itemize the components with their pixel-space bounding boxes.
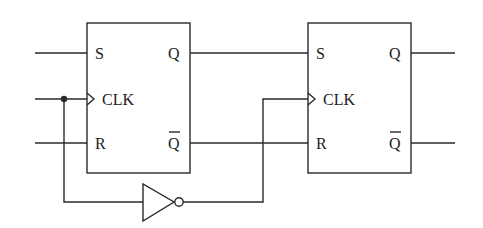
inverted-clock-wire <box>183 99 308 202</box>
ff2-s-label: S <box>316 45 325 62</box>
flipflop-2: S CLK R Q Q <box>308 23 411 173</box>
inverter-triangle-icon <box>143 184 174 221</box>
ff1-clk-label: CLK <box>102 91 134 108</box>
ff1-s-label: S <box>95 45 104 62</box>
ff2-qbar-label: Q <box>389 135 401 152</box>
ff2-clk-label: CLK <box>323 91 355 108</box>
ff2-q-label: Q <box>389 45 401 62</box>
circuit-diagram: S CLK R Q Q S CLK R Q Q <box>0 0 483 228</box>
inverter-bubble-icon <box>175 198 183 206</box>
flipflop-1: S CLK R Q Q <box>87 23 190 173</box>
ff1-q-label: Q <box>168 45 180 62</box>
ff1-r-label: R <box>95 135 106 152</box>
ff1-qbar-label: Q <box>168 135 180 152</box>
ff2-r-label: R <box>316 135 327 152</box>
inverter-gate <box>143 184 183 221</box>
